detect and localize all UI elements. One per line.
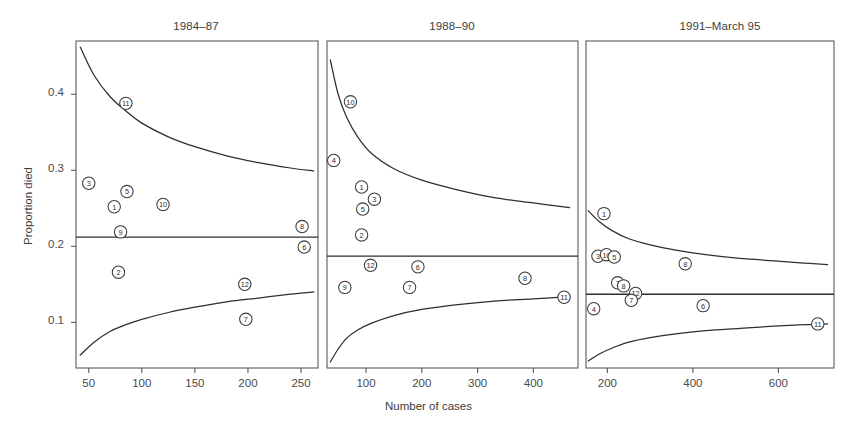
data-point-marker[interactable]: 3: [368, 193, 380, 205]
data-point-marker[interactable]: 6: [298, 241, 310, 253]
svg-text:4: 4: [332, 156, 336, 165]
y-tick-label: 0.1: [18, 314, 64, 326]
svg-text:8: 8: [683, 260, 687, 269]
data-point-marker[interactable]: 3: [83, 177, 95, 189]
svg-text:6: 6: [302, 243, 306, 252]
data-point-marker[interactable]: 7: [625, 294, 637, 306]
svg-text:8: 8: [523, 274, 527, 283]
data-point-marker[interactable]: 8: [296, 220, 308, 232]
svg-text:12: 12: [241, 280, 249, 289]
data-point-marker[interactable]: 5: [356, 203, 368, 215]
upper-control-limit-curve: [80, 47, 314, 171]
x-tick-label: 150: [170, 377, 220, 389]
funnel-plot-figure: Proportion died Number of cases 1984–87 …: [0, 0, 854, 432]
data-point-marker[interactable]: 1: [108, 201, 120, 213]
data-point-marker[interactable]: 9: [339, 281, 351, 293]
x-tick-label: 400: [508, 377, 558, 389]
svg-text:5: 5: [125, 187, 129, 196]
x-tick-label: 200: [223, 377, 273, 389]
panel-2: 104135212689711: [327, 41, 578, 373]
data-point-marker[interactable]: 12: [364, 259, 376, 271]
svg-text:5: 5: [361, 205, 365, 214]
svg-text:8: 8: [300, 222, 304, 231]
svg-text:7: 7: [407, 283, 411, 292]
svg-text:12: 12: [366, 261, 374, 270]
x-tick-label: 400: [668, 377, 718, 389]
svg-text:4: 4: [592, 305, 596, 314]
svg-text:10: 10: [346, 98, 354, 107]
data-point-marker[interactable]: 2: [112, 266, 124, 278]
plot-canvas: 3115110986212710413521268971113105878127…: [0, 0, 854, 432]
data-point-marker[interactable]: 4: [587, 302, 599, 314]
svg-text:6: 6: [701, 302, 705, 311]
svg-text:8: 8: [622, 282, 626, 291]
data-point-marker[interactable]: 11: [558, 291, 570, 303]
svg-text:7: 7: [629, 296, 633, 305]
svg-text:1: 1: [112, 203, 116, 212]
x-tick-label: 250: [276, 377, 326, 389]
data-point-marker[interactable]: 5: [121, 185, 133, 197]
data-point-marker[interactable]: 10: [157, 198, 169, 210]
y-tick-label: 0.2: [18, 238, 64, 250]
panel-1: 31151109862127: [71, 41, 318, 373]
svg-text:1: 1: [602, 210, 606, 219]
x-tick-label: 50: [64, 377, 114, 389]
svg-text:3: 3: [596, 252, 600, 261]
x-tick-label: 600: [753, 377, 803, 389]
x-tick-label: 200: [582, 377, 632, 389]
x-tick-label: 200: [397, 377, 447, 389]
upper-control-limit-curve: [588, 211, 827, 265]
panel-3: 131058781274611: [586, 41, 834, 373]
svg-text:3: 3: [87, 179, 91, 188]
data-point-marker[interactable]: 5: [608, 251, 620, 263]
data-point-marker[interactable]: 4: [327, 154, 339, 166]
data-point-marker[interactable]: 6: [412, 261, 424, 273]
y-tick-label: 0.3: [18, 162, 64, 174]
svg-text:9: 9: [343, 283, 347, 292]
data-point-marker[interactable]: 8: [519, 272, 531, 284]
lower-control-limit-curve: [588, 324, 827, 361]
data-point-marker[interactable]: 9: [114, 226, 126, 238]
svg-text:6: 6: [416, 263, 420, 272]
data-point-marker[interactable]: 11: [120, 97, 132, 109]
x-tick-label: 100: [117, 377, 167, 389]
lower-control-limit-curve: [330, 297, 569, 362]
data-point-marker[interactable]: 8: [679, 258, 691, 270]
y-tick-label: 0.4: [18, 86, 64, 98]
svg-text:3: 3: [372, 195, 376, 204]
data-point-marker[interactable]: 7: [403, 281, 415, 293]
x-tick-label: 100: [341, 377, 391, 389]
data-point-marker[interactable]: 8: [617, 280, 629, 292]
data-point-marker[interactable]: 10: [344, 96, 356, 108]
svg-text:1: 1: [360, 183, 364, 192]
svg-text:2: 2: [360, 231, 364, 240]
lower-control-limit-curve: [80, 292, 314, 355]
data-point-marker[interactable]: 2: [355, 229, 367, 241]
svg-text:2: 2: [116, 268, 120, 277]
data-point-marker[interactable]: 11: [812, 318, 824, 330]
data-point-marker[interactable]: 1: [598, 207, 610, 219]
data-point-marker[interactable]: 12: [239, 278, 251, 290]
svg-text:9: 9: [119, 228, 123, 237]
data-point-marker[interactable]: 6: [697, 299, 709, 311]
svg-text:11: 11: [122, 99, 130, 108]
svg-text:7: 7: [244, 315, 248, 324]
svg-text:11: 11: [560, 293, 568, 302]
svg-text:5: 5: [612, 253, 616, 262]
data-point-marker[interactable]: 1: [355, 181, 367, 193]
data-point-marker[interactable]: 7: [240, 313, 252, 325]
svg-text:11: 11: [814, 320, 822, 329]
svg-text:10: 10: [159, 200, 167, 209]
x-tick-label: 300: [453, 377, 503, 389]
